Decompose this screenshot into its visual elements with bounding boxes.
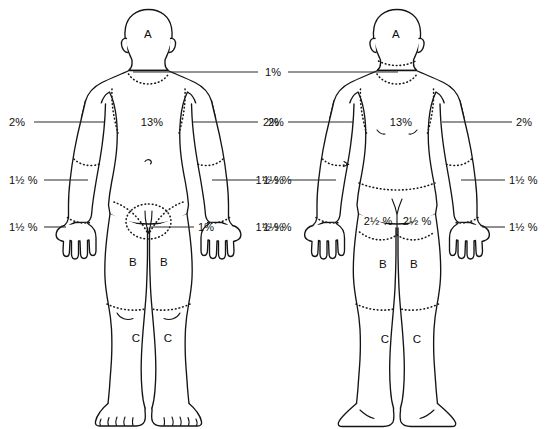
posterior-right-hand-percentage-label: 1½ % bbox=[509, 222, 538, 233]
anterior-genitalia-percentage-label: 1% bbox=[198, 222, 214, 233]
posterior-left-leg-region-label: C bbox=[381, 334, 389, 346]
anterior-right-ear bbox=[170, 38, 176, 52]
posterior-left-hand-outline bbox=[305, 223, 345, 260]
anterior-head-region-label: A bbox=[144, 29, 152, 41]
posterior-left-buttock-percentage-label: 2½ % bbox=[364, 216, 393, 227]
posterior-right-ear bbox=[418, 38, 424, 52]
anterior-left-leg-outline bbox=[105, 214, 148, 416]
posterior-right-hand-outline bbox=[450, 223, 490, 260]
anterior-trunk-percentage-label: 13% bbox=[141, 117, 163, 128]
posterior-head-region-label: A bbox=[392, 29, 400, 41]
posterior-right-buttock-percentage-label: 2½ % bbox=[403, 216, 432, 227]
anterior-left-upper-arm-percentage-label: 2% bbox=[9, 117, 25, 128]
anterior-left-thigh-region-label: B bbox=[129, 257, 137, 269]
posterior-trunk-percentage-label: 13% bbox=[390, 117, 412, 128]
posterior-left-hand-percentage-label: 1½ % bbox=[255, 222, 284, 233]
anterior-right-thigh-region-label: B bbox=[160, 257, 168, 269]
posterior-right-leg-region-label: C bbox=[413, 334, 421, 346]
posterior-right-upper-arm-percentage-label: 2% bbox=[516, 117, 532, 128]
anterior-left-hand-outline bbox=[56, 223, 96, 260]
anterior-left-hand-percentage-label: 1½ % bbox=[9, 222, 38, 233]
posterior-left-leg-outline bbox=[353, 214, 396, 416]
anterior-left-forearm-percentage-label: 1½ % bbox=[9, 175, 38, 186]
anterior-right-leg-outline bbox=[150, 214, 193, 416]
body-diagram-svg bbox=[0, 0, 547, 429]
posterior-right-thigh-region-label: B bbox=[410, 259, 418, 271]
posterior-left-forearm-percentage-label: 1½ % bbox=[255, 175, 284, 186]
neck-percentage-label: 1% bbox=[265, 67, 281, 78]
anterior-left-leg-region-label: C bbox=[132, 333, 140, 345]
posterior-left-ear bbox=[370, 38, 376, 52]
anterior-right-leg-region-label: C bbox=[164, 333, 172, 345]
posterior-right-leg-outline bbox=[398, 214, 441, 416]
anterior-left-ear bbox=[121, 38, 127, 52]
posterior-left-upper-arm-percentage-label: 2% bbox=[268, 117, 284, 128]
posterior-right-forearm-percentage-label: 1½ % bbox=[509, 175, 538, 186]
lund-browder-chart: 1% A 13% 2% 1½ % 1½ % 1% 2% 1½ % 1½ % B … bbox=[0, 0, 547, 429]
posterior-left-thigh-region-label: B bbox=[379, 259, 387, 271]
